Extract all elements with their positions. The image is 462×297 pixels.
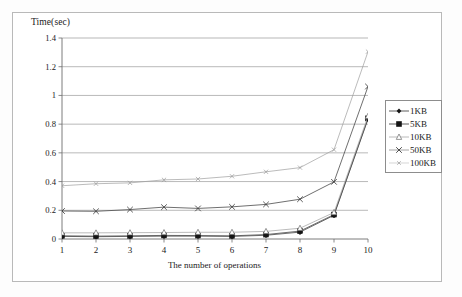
legend-label: 1KB bbox=[410, 105, 427, 117]
legend-marker-filled-square-icon bbox=[388, 118, 410, 130]
legend-label: 50KB bbox=[410, 144, 432, 156]
legend-item-1kb[interactable]: 1KB bbox=[388, 104, 439, 117]
y-tick-label: 1.4 bbox=[45, 33, 56, 43]
x-axis-title: The number of operations bbox=[62, 260, 367, 270]
series-100kb bbox=[60, 50, 370, 188]
x-tick-label: 3 bbox=[128, 245, 133, 255]
series-10kb bbox=[59, 113, 370, 235]
data-point bbox=[195, 229, 200, 234]
series-path bbox=[62, 116, 368, 233]
legend-item-50kb[interactable]: 50KB bbox=[388, 143, 439, 156]
chart-figure: Time(sec) 00.20.40.60.811.21.4 bbox=[0, 0, 462, 297]
x-tick-labels: 12345678910 bbox=[60, 245, 373, 255]
data-point bbox=[229, 229, 234, 234]
series-path bbox=[62, 52, 368, 186]
series-path bbox=[62, 87, 368, 212]
axes bbox=[59, 38, 369, 243]
x-tick-label: 5 bbox=[196, 245, 201, 255]
data-point bbox=[93, 230, 98, 235]
x-tick-label: 6 bbox=[230, 245, 235, 255]
legend-item-10kb[interactable]: 10KB bbox=[388, 130, 439, 143]
legend-marker-open-triangle-icon bbox=[388, 131, 410, 143]
legend-label: 10KB bbox=[410, 131, 432, 143]
data-point bbox=[59, 230, 64, 235]
y-tick-labels: 00.20.40.60.811.21.4 bbox=[45, 33, 56, 244]
series-50kb bbox=[59, 84, 371, 214]
series-path bbox=[62, 118, 368, 236]
legend-label: 100KB bbox=[410, 157, 436, 169]
legend-item-100kb[interactable]: 100KB bbox=[388, 156, 439, 169]
legend-marker-cross-x-icon bbox=[388, 144, 410, 156]
data-point bbox=[332, 148, 336, 152]
legend-marker-filled-diamond-icon bbox=[388, 105, 410, 117]
legend-label: 5KB bbox=[410, 118, 427, 130]
data-point bbox=[365, 84, 371, 90]
y-tick-label: 1 bbox=[52, 90, 56, 100]
gridlines bbox=[62, 38, 368, 210]
data-point bbox=[297, 225, 302, 230]
legend-marker-small-star-icon bbox=[388, 157, 410, 169]
x-tick-label: 7 bbox=[264, 245, 269, 255]
y-tick-label: 1.2 bbox=[45, 62, 56, 72]
x-tick-label: 9 bbox=[332, 245, 337, 255]
data-point bbox=[366, 50, 370, 54]
x-tick-label: 10 bbox=[364, 245, 374, 255]
series-lines bbox=[59, 50, 371, 240]
chart-legend: 1KB 5KB 10KB bbox=[385, 100, 442, 173]
data-point bbox=[127, 230, 132, 235]
y-tick-label: 0.8 bbox=[45, 119, 56, 129]
y-tick-label: 0.6 bbox=[45, 148, 56, 158]
x-tick-label: 1 bbox=[60, 245, 65, 255]
data-point bbox=[161, 230, 166, 235]
x-tick-label: 2 bbox=[94, 245, 99, 255]
y-tick-label: 0.4 bbox=[45, 177, 56, 187]
y-tick-label: 0 bbox=[52, 234, 56, 244]
legend-item-5kb[interactable]: 5KB bbox=[388, 117, 439, 130]
x-tick-label: 8 bbox=[298, 245, 303, 255]
y-tick-label: 0.2 bbox=[45, 205, 56, 215]
x-tick-label: 4 bbox=[162, 245, 167, 255]
